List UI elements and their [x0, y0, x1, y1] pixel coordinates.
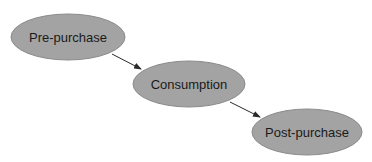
node-post-purchase: Post-purchase — [252, 109, 362, 155]
arrow-consumption-to-post-purchase — [230, 102, 260, 117]
node-label-consumption: Consumption — [151, 77, 228, 92]
arrow-pre-purchase-to-consumption — [112, 54, 141, 69]
node-consumption: Consumption — [133, 61, 245, 107]
node-pre-purchase: Pre-purchase — [11, 14, 125, 60]
node-label-post-purchase: Post-purchase — [265, 125, 349, 140]
node-label-pre-purchase: Pre-purchase — [29, 30, 107, 45]
consumption-process-diagram: Pre-purchase Consumption Post-purchase — [0, 0, 372, 162]
